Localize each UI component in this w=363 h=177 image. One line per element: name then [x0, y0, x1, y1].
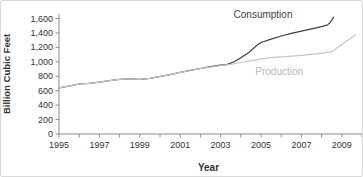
y-tick-label: 1,000: [30, 57, 53, 67]
y-tick-label: 1,400: [30, 28, 53, 38]
x-tick-label: 2003: [211, 140, 231, 150]
series-line-production: [59, 34, 356, 87]
x-tick-label: 2005: [251, 140, 271, 150]
y-tick-label: 600: [38, 86, 53, 96]
x-tick-label: 2001: [170, 140, 190, 150]
y-tick-label: 200: [38, 115, 53, 125]
x-axis-title: Year: [198, 162, 219, 173]
y-tick-label: 1,600: [30, 14, 53, 24]
natural-gas-consumption-production-chart: 02004006008001,0001,2001,4001,6001995199…: [0, 0, 363, 177]
y-tick-label: 1,200: [30, 42, 53, 52]
series-label-consumption: Consumption: [234, 9, 293, 20]
y-tick-label: 800: [38, 71, 53, 81]
x-tick-label: 1999: [130, 140, 150, 150]
y-tick-label: 400: [38, 100, 53, 110]
x-tick-label: 1997: [89, 140, 109, 150]
chart-canvas: 02004006008001,0001,2001,4001,6001995199…: [1, 1, 363, 177]
x-tick-label: 2009: [332, 140, 352, 150]
x-tick-label: 1995: [49, 140, 69, 150]
y-tick-label: 0: [48, 129, 53, 139]
series-label-production: Production: [255, 66, 303, 77]
series-line-consumption: [59, 17, 334, 88]
y-axis-title: Billion Cubic Feet: [1, 33, 12, 114]
x-tick-label: 2007: [291, 140, 311, 150]
